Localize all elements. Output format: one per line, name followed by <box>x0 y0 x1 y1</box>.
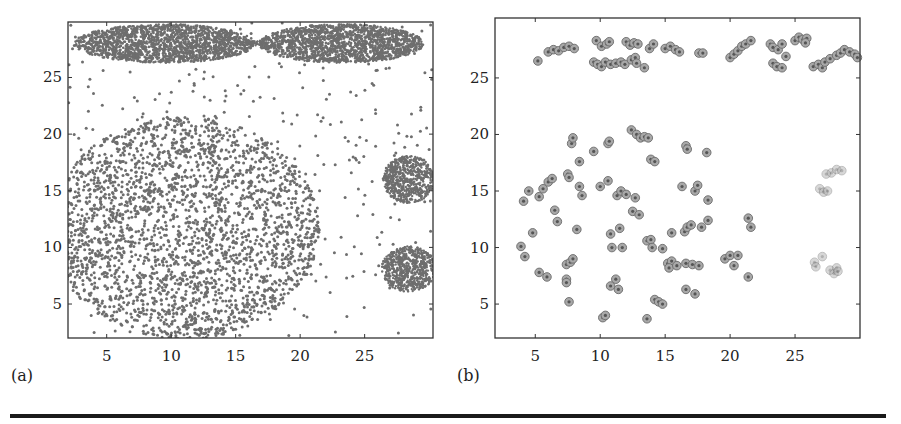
y-tick-label: 25 <box>470 69 489 87</box>
x-tick-label: 15 <box>226 347 245 365</box>
data-point <box>635 210 644 219</box>
data-point <box>747 223 756 232</box>
data-point <box>521 252 530 261</box>
data-point <box>553 217 562 226</box>
data-point <box>693 181 702 190</box>
data-point <box>687 221 696 230</box>
data-point <box>622 190 631 199</box>
data-point <box>570 44 579 53</box>
x-tick-label: 15 <box>656 347 675 365</box>
data-point <box>665 264 674 273</box>
data-point <box>573 225 582 234</box>
data-point <box>640 63 649 72</box>
data-point <box>562 278 571 287</box>
data-point <box>612 275 621 284</box>
data-point <box>519 197 528 206</box>
data-point <box>565 173 574 182</box>
scatter-panel-a: 510152025510152025 (a) <box>0 0 450 395</box>
data-point <box>673 261 682 270</box>
data-point <box>778 63 787 72</box>
data-point <box>704 216 713 225</box>
data-point <box>596 182 605 191</box>
scatter-panel-b: 510152025510152025 (b) <box>450 0 901 395</box>
data-point <box>647 235 656 244</box>
data-point <box>675 48 684 57</box>
points-b <box>517 33 862 323</box>
x-tick-label: 10 <box>162 347 181 365</box>
data-point <box>834 267 843 276</box>
x-tick-label: 5 <box>530 347 540 365</box>
y-tick-label: 10 <box>470 239 489 257</box>
data-point <box>747 36 756 45</box>
data-point <box>615 224 624 233</box>
data-point <box>823 187 832 196</box>
data-point <box>569 255 578 264</box>
data-point <box>575 182 584 191</box>
data-point <box>565 298 574 307</box>
data-point <box>704 196 713 205</box>
data-point <box>801 39 810 48</box>
data-point <box>589 147 598 156</box>
data-point <box>812 262 821 271</box>
x-tick-label: 5 <box>102 347 112 365</box>
data-point <box>649 40 658 49</box>
data-point <box>631 193 640 202</box>
data-point <box>543 273 552 282</box>
data-point <box>643 314 652 323</box>
data-point <box>634 40 643 49</box>
data-point <box>650 157 659 166</box>
data-point <box>744 214 753 223</box>
y-tick-label: 15 <box>43 182 62 200</box>
x-tick-label: 25 <box>786 347 805 365</box>
data-point <box>682 285 691 294</box>
y-tick-label: 15 <box>470 182 489 200</box>
data-point <box>658 244 667 253</box>
data-point <box>644 134 653 143</box>
data-point <box>535 268 544 277</box>
data-point <box>744 273 753 282</box>
x-tick-label: 25 <box>355 347 374 365</box>
data-point <box>569 134 578 143</box>
scatter-plot-a: 510152025510152025 <box>0 0 450 395</box>
data-point <box>535 192 544 201</box>
y-tick-label: 10 <box>43 238 62 256</box>
data-point <box>691 290 700 299</box>
data-point <box>578 191 587 200</box>
x-tick-label: 20 <box>291 347 310 365</box>
data-point <box>548 174 557 183</box>
data-point <box>601 311 610 320</box>
data-point <box>517 242 526 251</box>
data-point <box>605 37 614 46</box>
data-point <box>605 137 614 146</box>
data-point <box>678 182 687 191</box>
y-tick-label: 25 <box>43 68 62 86</box>
figure-bottom-rule <box>10 414 886 418</box>
data-point <box>632 59 641 68</box>
data-point <box>608 243 617 252</box>
y-tick-label: 5 <box>52 295 62 313</box>
data-point <box>702 148 711 157</box>
data-point <box>782 52 791 61</box>
panel-label-a: (a) <box>11 366 33 385</box>
panel-label-b: (b) <box>457 366 480 385</box>
x-tick-label: 10 <box>591 347 610 365</box>
data-point <box>575 157 584 166</box>
data-point <box>778 40 787 49</box>
y-tick-label: 20 <box>470 125 489 143</box>
data-point <box>734 251 743 260</box>
data-point <box>604 177 613 186</box>
data-point <box>726 251 735 260</box>
y-tick-label: 20 <box>43 125 62 143</box>
data-point <box>683 145 692 154</box>
data-point <box>695 261 704 270</box>
data-point <box>550 206 559 215</box>
data-point <box>618 243 627 252</box>
data-point <box>614 285 623 294</box>
data-point <box>528 229 537 238</box>
data-point <box>697 223 706 232</box>
cluster-top-left-ellipse <box>74 23 256 64</box>
data-point <box>818 252 827 261</box>
data-point <box>606 230 615 239</box>
data-point <box>648 243 657 252</box>
data-point <box>838 166 847 175</box>
